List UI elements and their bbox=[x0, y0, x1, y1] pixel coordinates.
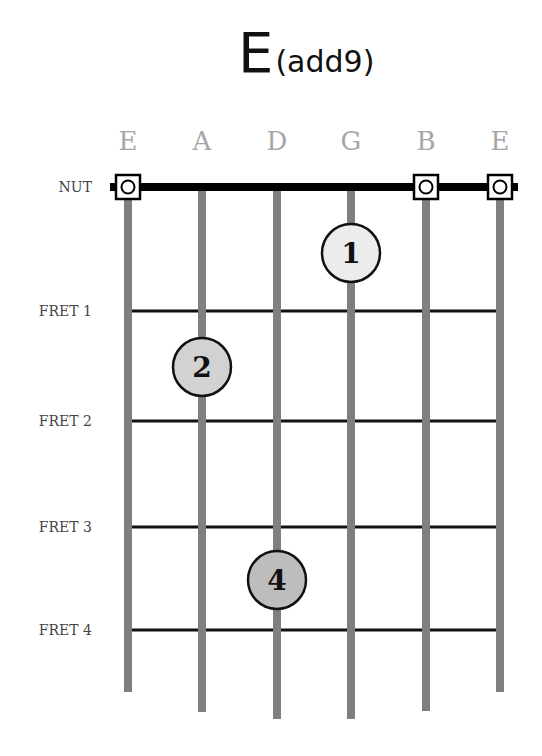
string-name: E bbox=[491, 126, 510, 156]
strings bbox=[124, 187, 504, 719]
fret-label: FRET 4 bbox=[39, 622, 92, 638]
open-circle-icon bbox=[420, 181, 433, 194]
fret-line bbox=[132, 629, 496, 632]
string-name: G bbox=[341, 126, 362, 156]
open-circle-icon bbox=[494, 181, 507, 194]
fret-line bbox=[132, 420, 496, 423]
chord-suffix: (add9) bbox=[275, 44, 374, 79]
finger-number: 4 bbox=[267, 564, 286, 597]
fret-line bbox=[132, 310, 496, 313]
finger-number: 2 bbox=[192, 351, 211, 384]
nut-bar bbox=[110, 183, 518, 191]
finger-number: 1 bbox=[341, 237, 360, 270]
chord-root: E bbox=[238, 20, 273, 85]
string-line bbox=[124, 187, 132, 692]
chord-diagram: E(add9) EADGBE NUTFRET 1FRET 2FRET 3FRET… bbox=[0, 0, 542, 756]
fret-label: FRET 1 bbox=[39, 303, 92, 319]
string-name: E bbox=[119, 126, 138, 156]
string-name: A bbox=[192, 126, 213, 156]
finger-marker: 2 bbox=[173, 338, 231, 396]
string-line bbox=[198, 187, 206, 712]
string-names: EADGBE bbox=[119, 126, 510, 156]
finger-marker: 4 bbox=[248, 551, 306, 609]
nut-label: NUT bbox=[59, 179, 93, 195]
fret-labels: NUTFRET 1FRET 2FRET 3FRET 4 bbox=[39, 179, 93, 638]
string-line bbox=[496, 187, 504, 692]
open-circle-icon bbox=[122, 181, 135, 194]
finger-marker: 1 bbox=[322, 224, 380, 282]
chord-title: E(add9) bbox=[238, 20, 374, 85]
string-line bbox=[273, 187, 281, 719]
string-line bbox=[422, 187, 430, 711]
string-name: B bbox=[416, 126, 435, 156]
string-name: D bbox=[267, 126, 288, 156]
fret-line bbox=[132, 526, 496, 529]
nut bbox=[110, 183, 518, 191]
fret-label: FRET 2 bbox=[39, 413, 92, 429]
fret-label: FRET 3 bbox=[39, 519, 92, 535]
